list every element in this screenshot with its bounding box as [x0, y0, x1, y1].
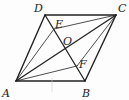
label-A: A [1, 87, 10, 100]
parallelogram-diagram: A B C D E O F [0, 0, 129, 100]
segment-BD [45, 15, 85, 81]
label-B: B [81, 87, 90, 100]
label-E: E [54, 18, 63, 31]
label-D: D [33, 2, 43, 15]
label-F: F [78, 58, 87, 71]
label-O: O [63, 35, 72, 48]
label-C: C [118, 2, 127, 15]
geometry-figure: A B C D E O F [0, 0, 129, 100]
